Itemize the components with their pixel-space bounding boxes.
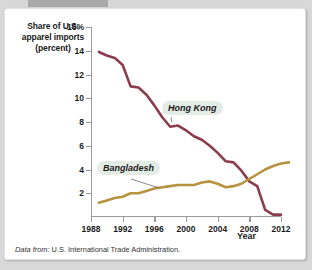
- y-tick-label: 8: [79, 117, 84, 127]
- x-tick: [218, 217, 219, 222]
- y-tick-label: 4: [79, 165, 84, 175]
- series-label-hong-kong: Hong Kong: [162, 101, 223, 115]
- x-tick: [154, 217, 155, 222]
- y-tick-label: 2: [79, 188, 84, 198]
- y-tick-label: 14: [75, 46, 84, 56]
- y-tick: [86, 51, 91, 52]
- x-tick: [249, 217, 250, 222]
- plot-area: 246810121416% 19881992199620002004200820…: [91, 27, 281, 217]
- x-tick-label: 2000: [177, 224, 196, 234]
- x-tick-label: 2012: [272, 224, 291, 234]
- x-tick-label: 1996: [145, 224, 164, 234]
- y-tick-label: 12: [75, 70, 84, 80]
- y-tick: [86, 170, 91, 171]
- y-tick: [86, 98, 91, 99]
- series-line-hong-kong: [99, 52, 281, 215]
- x-tick-label: 1992: [113, 224, 132, 234]
- leader-line-bangladesh: [131, 179, 159, 188]
- y-tick: [86, 193, 91, 194]
- source-text: U.S. International Trade Administration.: [52, 245, 181, 254]
- figure-page: Share of U.S. apparel imports (percent) …: [0, 0, 312, 270]
- x-axis-title: Year: [237, 231, 256, 241]
- series-label-bangladesh: Bangladesh: [97, 161, 160, 175]
- chart-lines: [91, 27, 281, 217]
- x-tick-label: 1988: [82, 224, 101, 234]
- y-tick: [86, 75, 91, 76]
- y-tick-label: 6: [79, 141, 84, 151]
- leader-line-hong-kong: [171, 117, 172, 122]
- y-axis-title-line-2: apparel imports: [13, 32, 93, 43]
- top-chrome-bar: [28, 0, 108, 7]
- chart-card: Share of U.S. apparel imports (percent) …: [4, 8, 306, 260]
- source-note: Data from: U.S. International Trade Admi…: [15, 245, 180, 254]
- x-tick: [91, 217, 92, 222]
- y-tick-label: 16%: [67, 22, 84, 32]
- y-tick: [86, 146, 91, 147]
- x-tick-label: 2004: [208, 224, 227, 234]
- source-prefix: Data from:: [15, 245, 50, 254]
- y-tick: [86, 27, 91, 28]
- x-tick: [281, 217, 282, 222]
- x-tick: [123, 217, 124, 222]
- x-tick: [186, 217, 187, 222]
- y-tick-label: 10: [75, 93, 84, 103]
- y-tick: [86, 122, 91, 123]
